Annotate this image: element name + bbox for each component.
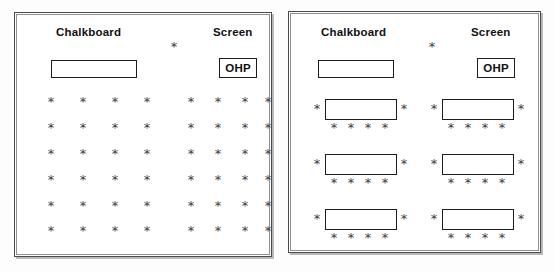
figure-canvas: Chalkboard Screen * OHP * * * * * * * * … <box>0 0 554 272</box>
seat-mark: * <box>312 158 322 170</box>
group-table <box>442 154 514 175</box>
chalkboard-label-left: Chalkboard <box>56 26 121 38</box>
seat-mark: * <box>263 148 273 160</box>
ohp-box-right: OHP <box>477 58 515 78</box>
seat-mark: * <box>110 148 120 160</box>
seat-mark: * <box>516 213 526 225</box>
seat-mark: * <box>363 177 373 189</box>
seat-mark: * <box>78 225 88 237</box>
seat-mark: * <box>399 103 409 115</box>
seat-mark: * <box>46 96 56 108</box>
group-table <box>325 154 397 175</box>
seat-mark: * <box>46 122 56 134</box>
seat-mark: * <box>46 174 56 186</box>
seat-mark: * <box>429 103 439 115</box>
panel-traditional-rows: Chalkboard Screen * OHP * * * * * * * * … <box>14 12 272 257</box>
seat-mark: * <box>78 122 88 134</box>
seat-mark: * <box>463 122 473 134</box>
seat-mark: * <box>240 148 250 160</box>
seat-mark: * <box>46 200 56 212</box>
seat-mark: * <box>380 177 390 189</box>
seat-mark: * <box>463 232 473 244</box>
seat-mark: * <box>142 200 152 212</box>
panel-inner-border <box>16 14 270 255</box>
seat-mark: * <box>329 122 339 134</box>
seat-mark: * <box>186 225 196 237</box>
seat-mark: * <box>110 174 120 186</box>
seat-mark: * <box>346 122 356 134</box>
seat-mark: * <box>329 177 339 189</box>
seat-mark: * <box>78 174 88 186</box>
seat-mark: * <box>142 148 152 160</box>
seat-mark: * <box>110 122 120 134</box>
seat-mark: * <box>429 213 439 225</box>
seat-mark: * <box>363 232 373 244</box>
seat-mark: * <box>240 174 250 186</box>
seat-mark: * <box>263 96 273 108</box>
seat-mark: * <box>497 232 507 244</box>
seat-mark: * <box>142 96 152 108</box>
seat-mark: * <box>213 96 223 108</box>
seat-mark: * <box>480 177 490 189</box>
seat-mark: * <box>446 122 456 134</box>
seat-mark: * <box>240 122 250 134</box>
seat-mark: * <box>480 122 490 134</box>
seat-mark: * <box>213 148 223 160</box>
seat-mark: * <box>429 158 439 170</box>
seat-mark: * <box>240 200 250 212</box>
seat-mark: * <box>142 225 152 237</box>
seat-mark: * <box>446 177 456 189</box>
seat-mark: * <box>240 225 250 237</box>
seat-mark: * <box>399 158 409 170</box>
seat-mark: * <box>186 122 196 134</box>
seat-mark: * <box>263 122 273 134</box>
seat-mark: * <box>186 200 196 212</box>
seat-mark: * <box>213 200 223 212</box>
seat-mark: * <box>346 232 356 244</box>
seat-mark: * <box>497 177 507 189</box>
seat-mark: * <box>363 122 373 134</box>
panel-table-groups: Chalkboard Screen * OHP * * * * * * * * … <box>288 11 541 253</box>
group-table <box>325 99 397 120</box>
seat-mark: * <box>186 148 196 160</box>
seat-mark: * <box>110 200 120 212</box>
seat-mark: * <box>46 225 56 237</box>
seat-mark: * <box>380 122 390 134</box>
seat-mark: * <box>263 174 273 186</box>
seat-mark: * <box>186 96 196 108</box>
seat-mark: * <box>312 213 322 225</box>
seat-mark: * <box>142 174 152 186</box>
seat-mark: * <box>78 200 88 212</box>
seat-mark: * <box>240 96 250 108</box>
seat-mark: * <box>78 148 88 160</box>
group-table <box>442 209 514 230</box>
seat-mark: * <box>46 148 56 160</box>
group-table <box>325 209 397 230</box>
seat-mark: * <box>480 232 490 244</box>
seat-mark: * <box>497 122 507 134</box>
seat-mark: * <box>516 103 526 115</box>
chalkboard-box-right <box>318 60 394 78</box>
seat-mark: * <box>463 177 473 189</box>
seat-mark: * <box>186 174 196 186</box>
seat-mark: * <box>213 174 223 186</box>
screen-label-left: Screen <box>213 26 253 38</box>
seat-mark: * <box>516 158 526 170</box>
ohp-box-left: OHP <box>219 58 257 78</box>
seat-mark: * <box>110 96 120 108</box>
seat-mark: * <box>446 232 456 244</box>
seat-mark: * <box>263 200 273 212</box>
teacher-mark-right: * <box>427 41 437 53</box>
chalkboard-label-right: Chalkboard <box>321 26 386 38</box>
seat-mark: * <box>78 96 88 108</box>
seat-mark: * <box>263 225 273 237</box>
seat-mark: * <box>312 103 322 115</box>
chalkboard-box-left <box>51 60 137 78</box>
group-table <box>442 99 514 120</box>
seat-mark: * <box>213 122 223 134</box>
seat-mark: * <box>110 225 120 237</box>
seat-mark: * <box>142 122 152 134</box>
seat-mark: * <box>399 213 409 225</box>
screen-label-right: Screen <box>471 26 511 38</box>
seat-mark: * <box>346 177 356 189</box>
